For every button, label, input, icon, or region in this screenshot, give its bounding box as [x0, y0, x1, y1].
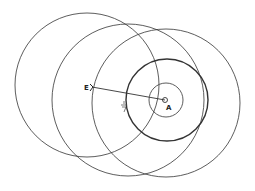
circles-diagram: E A [0, 0, 255, 191]
label-e: E [84, 84, 89, 92]
circle-middle-large [52, 24, 204, 176]
segment-e-to-a [92, 87, 165, 100]
label-a: A [166, 104, 172, 112]
point-e-marker [90, 84, 93, 91]
diagram-canvas: E A [0, 0, 255, 191]
circle-medium-thick [126, 59, 208, 141]
circle-right-large [92, 29, 240, 177]
